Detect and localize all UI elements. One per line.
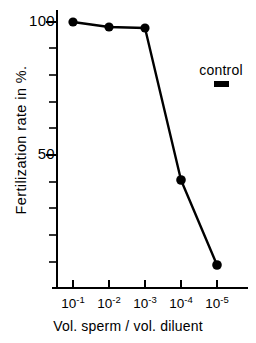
x-tick-base-4: 10 (169, 296, 184, 311)
plot-area (0, 0, 256, 343)
x-tick-base-3: 10 (133, 296, 148, 311)
x-axis-label: Vol. sperm / vol. diluent (0, 318, 256, 334)
x-tick-base-1: 10 (61, 296, 76, 311)
legend: control (186, 62, 256, 87)
data-point-4 (176, 175, 186, 185)
legend-marker-control (214, 81, 229, 87)
x-tick-exponent-1: -1 (76, 294, 84, 305)
y-major-ticks (46, 22, 57, 155)
x-axis-ticks (73, 280, 217, 288)
x-tick-base-2: 10 (97, 296, 112, 311)
data-point-3 (140, 23, 149, 32)
data-point-markers (68, 17, 221, 269)
data-point-2 (104, 22, 113, 31)
chart-figure: Fertilization rate in %. 100 50 (0, 0, 256, 343)
x-tick-exponent-5: -5 (220, 294, 228, 305)
x-tick-label-5: 10-5 (194, 296, 240, 311)
data-point-5 (212, 260, 222, 270)
legend-label-control: control (186, 62, 256, 78)
x-tick-exponent-4: -4 (184, 294, 192, 305)
data-line-fertilization-rate (73, 22, 217, 265)
x-tick-base-5: 10 (205, 296, 220, 311)
x-tick-exponent-2: -2 (112, 294, 120, 305)
x-tick-exponent-3: -3 (148, 294, 156, 305)
data-point-1 (68, 17, 77, 26)
